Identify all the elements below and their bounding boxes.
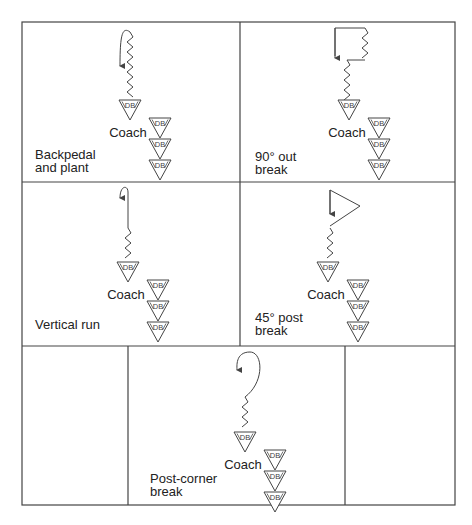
backpedal-zigzag — [327, 228, 333, 258]
db-player-icon: DB — [149, 118, 171, 138]
break-zigzag — [362, 28, 368, 58]
db-player-icon: DB — [149, 160, 171, 180]
db-player-icon: DB — [147, 280, 169, 300]
coach-label: Coach — [109, 125, 147, 140]
coach-label: Coach — [328, 125, 366, 140]
db-player-icon: DB — [317, 262, 339, 282]
backpedal-zigzag — [127, 32, 133, 97]
panel-label-vertical-run: Vertical run — [35, 318, 100, 331]
db-player-icon: DB — [234, 432, 256, 452]
svg-text:DB: DB — [374, 161, 384, 170]
svg-text:DB: DB — [155, 119, 165, 128]
db-player-icon: DB — [119, 100, 141, 120]
post-break-line — [330, 190, 360, 226]
svg-text:DB: DB — [153, 323, 163, 332]
db-player-icon: DB — [264, 450, 286, 470]
svg-text:DB: DB — [353, 281, 363, 290]
db-player-icon: DB — [347, 322, 369, 342]
panel-label-backpedal-plant: Backpedal and plant — [35, 148, 96, 174]
svg-text:DB: DB — [270, 493, 280, 502]
svg-text:DB: DB — [323, 263, 333, 272]
backpedal-zigzag — [344, 60, 350, 100]
svg-text:DB: DB — [155, 140, 165, 149]
db-player-icon: DB — [368, 118, 390, 138]
db-player-icon: DB — [117, 262, 139, 282]
svg-text:DB: DB — [270, 472, 280, 481]
svg-text:DB: DB — [153, 302, 163, 311]
db-player-icon: DB — [149, 139, 171, 159]
db-player-icon: DB — [368, 139, 390, 159]
coach-label: Coach — [107, 287, 145, 302]
svg-text:DB: DB — [374, 119, 384, 128]
backpedal-zigzag — [125, 228, 131, 258]
svg-text:DB: DB — [125, 101, 135, 110]
out-break-line — [335, 28, 365, 56]
svg-text:DB: DB — [123, 263, 133, 272]
db-player-icon: DB — [338, 100, 360, 120]
coach-label: Coach — [307, 287, 345, 302]
panel-label-ninety-out: 90° out break — [255, 150, 296, 176]
svg-text:DB: DB — [353, 323, 363, 332]
svg-text:DB: DB — [153, 281, 163, 290]
svg-text:DB: DB — [344, 101, 354, 110]
db-player-icon: DB — [147, 322, 169, 342]
db-player-icon: DB — [264, 492, 286, 512]
db-player-icon: DB — [147, 301, 169, 321]
vertical-arrow — [120, 187, 128, 228]
coach-label: Coach — [224, 457, 262, 472]
svg-text:DB: DB — [240, 433, 250, 442]
panel-label-forty-five-post: 45° post break — [255, 311, 303, 337]
db-player-icon: DB — [347, 301, 369, 321]
db-player-icon: DB — [347, 280, 369, 300]
db-player-icon: DB — [368, 160, 390, 180]
svg-text:DB: DB — [353, 302, 363, 311]
corner-arrow — [237, 352, 260, 397]
panel-label-post-corner: Post-corner break — [150, 472, 217, 498]
db-player-icon: DB — [264, 471, 286, 491]
svg-text:DB: DB — [270, 451, 280, 460]
svg-text:DB: DB — [155, 161, 165, 170]
drill-grid: DBCoachDBDBDBDBCoachDBDBDBDBCoachDBDBDBD… — [0, 0, 472, 525]
svg-text:DB: DB — [374, 140, 384, 149]
drill-diagram: DBCoachDBDBDBDBCoachDBDBDBDBCoachDBDBDBD… — [0, 0, 472, 525]
backpedal-zigzag — [242, 397, 248, 427]
